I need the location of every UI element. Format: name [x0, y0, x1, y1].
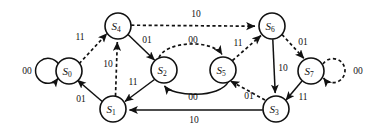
- edge-s4-s6[interactable]: 10: [131, 9, 255, 26]
- edge-label-s2-s1: 11: [128, 77, 137, 87]
- edge-s0-s4[interactable]: 11: [75, 32, 107, 64]
- edge-label-s2-s5: 00: [188, 35, 198, 45]
- state-node-s4[interactable]: S4: [105, 13, 131, 39]
- edge-label-s7-s3: 11: [298, 92, 307, 102]
- state-diagram: 00 11 01 10 01: [0, 0, 383, 133]
- edge-label-s5-s2: 00: [188, 92, 198, 102]
- edge-label-s0-s4: 11: [75, 32, 84, 42]
- edge-s6-s3[interactable]: 10: [273, 39, 288, 93]
- edge-label-s7-s7: 00: [353, 66, 363, 76]
- edge-label-s4-s6: 10: [191, 9, 201, 19]
- state-node-s5[interactable]: S5: [210, 57, 236, 83]
- edge-s1-s4[interactable]: 10: [103, 42, 117, 96]
- edge-s5-s6[interactable]: 11: [233, 36, 262, 61]
- state-node-s2[interactable]: S2: [151, 57, 177, 83]
- edge-path-s0-s0: [36, 58, 59, 83]
- fsm-canvas: 00 11 01 10 01: [0, 0, 383, 133]
- edge-s7-s7[interactable]: 00: [323, 59, 363, 83]
- edge-label-s1-s4: 10: [103, 59, 113, 69]
- edge-s4-s2[interactable]: 01: [128, 35, 155, 61]
- edge-s5-s2[interactable]: 00: [165, 82, 229, 103]
- edge-path-s2-s5: [159, 44, 222, 58]
- edge-s0-s0[interactable]: 00: [22, 58, 58, 83]
- edge-s1-s0[interactable]: 01: [76, 80, 103, 104]
- edge-label-s3-s5: 01: [244, 91, 254, 101]
- edge-label-s5-s6: 11: [233, 38, 242, 48]
- edge-s2-s5[interactable]: 00: [159, 35, 222, 58]
- edge-s6-s7[interactable]: 01: [282, 35, 308, 59]
- state-node-s6[interactable]: S6: [259, 13, 285, 39]
- state-node-s0[interactable]: S0: [56, 58, 82, 84]
- state-node-s3[interactable]: S3: [263, 96, 289, 122]
- state-node-s1[interactable]: S1: [100, 96, 126, 122]
- edge-label-s1-s0: 01: [76, 94, 86, 104]
- edge-label-s3-s1: 10: [189, 115, 199, 125]
- edge-s3-s1[interactable]: 10: [130, 110, 263, 125]
- edge-path-s6-s3: [273, 39, 275, 93]
- edge-s3-s5[interactable]: 01: [231, 81, 266, 101]
- edge-label-s0-s0: 00: [22, 66, 32, 76]
- edge-path-s4-s6: [131, 25, 255, 26]
- edge-s7-s3[interactable]: 11: [286, 81, 308, 102]
- edge-label-s6-s7: 01: [298, 37, 308, 47]
- edge-path-s1-s4: [116, 42, 118, 96]
- edge-label-s4-s2: 01: [142, 35, 152, 45]
- edge-path-s7-s7: [323, 59, 345, 83]
- state-node-s7[interactable]: S7: [298, 58, 324, 84]
- edge-s2-s1[interactable]: 11: [125, 77, 155, 102]
- edge-label-s6-s3: 10: [278, 63, 288, 73]
